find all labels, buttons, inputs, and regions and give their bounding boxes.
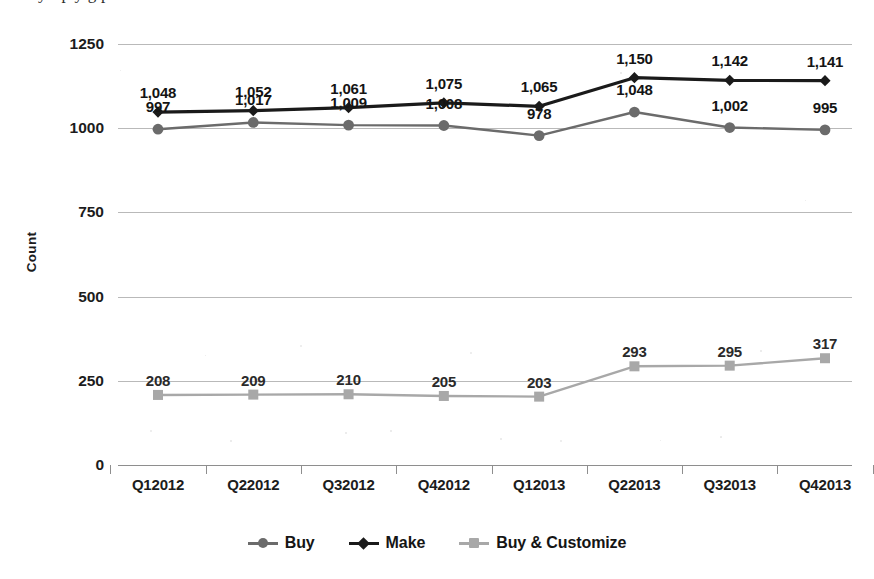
data-point-marker (153, 124, 164, 135)
x-axis-tick-labels: Q12012Q22012Q32012Q42012Q12013Q22013Q320… (118, 476, 852, 502)
x-axis-tick-marks (118, 465, 852, 474)
data-point-marker (153, 390, 163, 400)
x-axis-tick-label: Q32013 (675, 476, 785, 493)
legend-item-buy[interactable]: Buy (248, 534, 315, 552)
data-point-marker (629, 361, 639, 371)
data-point-marker (725, 361, 735, 371)
data-point-label: 1,150 (594, 50, 674, 67)
data-point-label: 995 (785, 99, 865, 116)
x-axis-tick-mark (682, 465, 683, 474)
data-point-marker (819, 75, 830, 86)
x-axis-tick-mark (777, 465, 778, 474)
x-axis-tick-label: Q42012 (389, 476, 499, 493)
legend-item-make[interactable]: Make (349, 534, 426, 552)
data-point-label: 1,048 (118, 84, 198, 101)
data-point-label: 1,002 (690, 97, 770, 114)
data-point-label: 209 (213, 372, 293, 389)
x-axis-tick-label: Q22013 (579, 476, 689, 493)
x-axis-tick-mark (587, 465, 588, 474)
data-point-label: 203 (499, 374, 579, 391)
x-axis-tick-label: Q12012 (103, 476, 213, 493)
legend-label: Buy & Customize (496, 534, 626, 552)
data-point-label: 210 (309, 371, 389, 388)
y-axis-tick-label: 500 (0, 288, 104, 306)
data-point-marker (724, 122, 735, 133)
x-axis-tick-mark (301, 465, 302, 474)
x-axis-tick-mark (396, 465, 397, 474)
data-point-label: 295 (690, 343, 770, 360)
x-axis-tick-mark (206, 465, 207, 474)
y-axis-tick-labels: 025050075010001250 (0, 44, 110, 465)
legend-label: Buy (285, 534, 315, 552)
legend-swatch-icon (459, 536, 489, 550)
line-chart: Count 025050075010001250 9971,0171,0091,… (0, 0, 874, 579)
legend-item-buy-customize[interactable]: Buy & Customize (459, 534, 626, 552)
data-point-label: 1,008 (404, 95, 484, 112)
data-point-label: 978 (499, 105, 579, 122)
data-point-marker (439, 391, 449, 401)
data-point-marker (820, 124, 831, 135)
plot-area: 9971,0171,0091,0089781,0481,0029951,0481… (118, 44, 852, 465)
data-point-marker (248, 390, 258, 400)
data-point-marker (534, 130, 545, 141)
data-point-label: 208 (118, 372, 198, 389)
x-axis-tick-mark (492, 465, 493, 474)
data-point-label: 1,052 (213, 83, 293, 100)
data-point-label: 1,141 (785, 53, 865, 70)
y-axis-tick-label: 250 (0, 372, 104, 390)
x-axis-tick-label: Q22012 (198, 476, 308, 493)
x-axis-tick-label: Q42013 (770, 476, 874, 493)
x-axis-tick-mark (110, 465, 111, 474)
data-point-marker (724, 75, 735, 86)
legend-label: Make (386, 534, 426, 552)
data-point-label: 1,065 (499, 78, 579, 95)
data-point-marker (343, 120, 354, 131)
data-point-marker (344, 389, 354, 399)
x-axis-tick-label: Q12013 (484, 476, 594, 493)
y-axis-tick-label: 1250 (0, 35, 104, 53)
data-point-label: 1,061 (309, 80, 389, 97)
data-point-marker (629, 107, 640, 118)
legend-swatch-icon (349, 536, 379, 550)
data-point-marker (534, 392, 544, 402)
data-point-marker (438, 120, 449, 131)
data-point-label: 1,142 (690, 52, 770, 69)
data-point-label: 1,048 (594, 81, 674, 98)
x-axis-tick-label: Q32012 (294, 476, 404, 493)
y-axis-tick-label: 750 (0, 203, 104, 221)
legend-swatch-icon (248, 536, 278, 550)
data-point-label: 205 (404, 373, 484, 390)
data-point-label: 293 (594, 343, 674, 360)
chart-legend: BuyMakeBuy & Customize (0, 527, 874, 559)
data-point-label: 317 (785, 335, 865, 352)
data-point-marker (248, 117, 259, 128)
data-point-marker (820, 353, 830, 363)
y-axis-tick-label: 1000 (0, 119, 104, 137)
y-axis-tick-label: 0 (0, 456, 104, 474)
data-point-label: 1,075 (404, 75, 484, 92)
data-point-label: 1,009 (309, 94, 389, 111)
